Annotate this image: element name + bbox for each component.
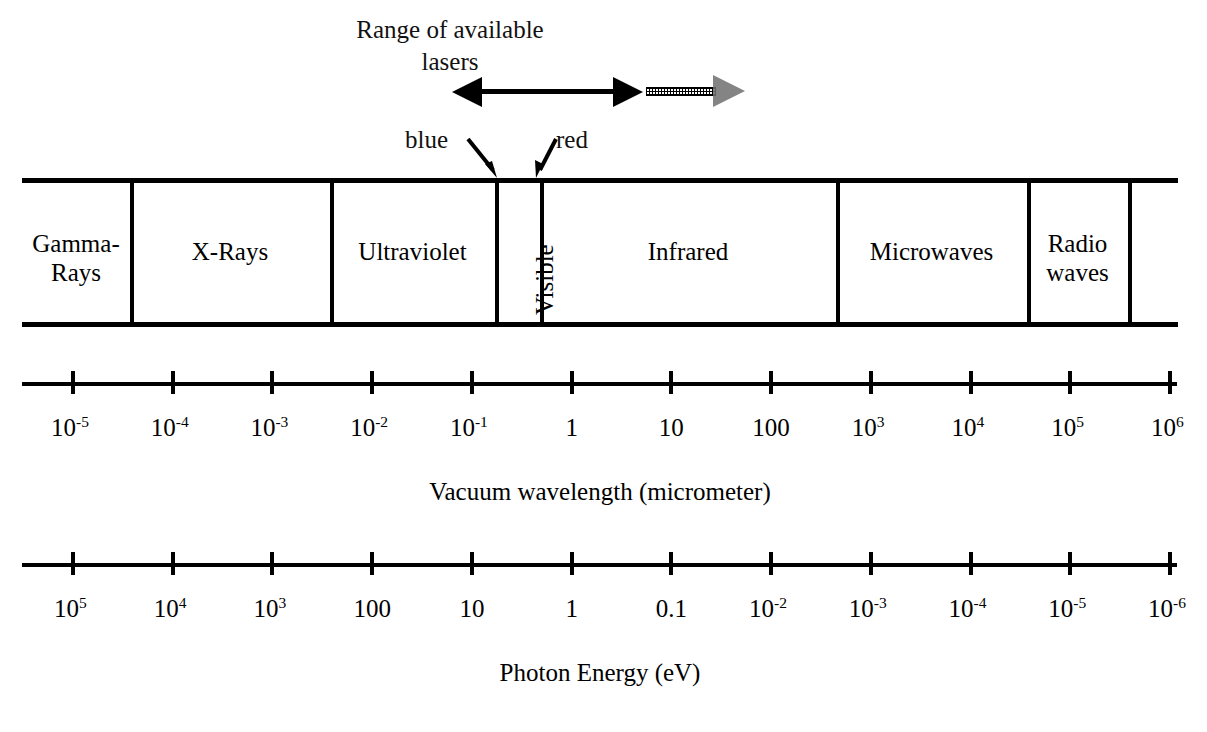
band-radio-waves-label: Radio waves — [1027, 230, 1128, 288]
axis-tick — [71, 552, 75, 575]
band-gamma-rays-label: Gamma- Rays — [22, 230, 130, 288]
axis-tick — [370, 371, 374, 394]
vacuum-wavelength-axis-caption: Vacuum wavelength (micrometer) — [429, 478, 771, 506]
photon-energy-axis-caption: Photon Energy (eV) — [500, 659, 701, 687]
axis-tick — [470, 371, 474, 394]
axis-tick — [1168, 552, 1172, 575]
axis-tick — [570, 371, 574, 394]
axis-tick — [769, 552, 773, 575]
band-x-rays-label: X-Rays — [130, 238, 330, 267]
axis-tick-label: 10-4 — [151, 414, 189, 442]
axis-tick — [270, 371, 274, 394]
red-pointer-arrow — [540, 139, 556, 170]
axis-tick-label: 10-6 — [1148, 595, 1186, 623]
axis-tick — [171, 371, 175, 394]
axis-tick — [869, 552, 873, 575]
axis-tick — [270, 552, 274, 575]
axis-tick — [370, 552, 374, 575]
axis-tick — [570, 552, 574, 575]
band-divider — [495, 178, 499, 327]
axis-tick-label: 10-2 — [350, 414, 388, 442]
pointer-arrows-group — [0, 0, 1207, 200]
axis-tick-label: 103 — [852, 414, 885, 442]
axis-tick-label: 10-5 — [1048, 595, 1086, 623]
axis-tick-label: 106 — [1151, 414, 1184, 442]
axis-tick-label: 10 — [659, 414, 684, 442]
photon-energy-axis-line — [22, 563, 1177, 567]
axis-tick-label: 10-5 — [51, 414, 89, 442]
axis-tick — [171, 552, 175, 575]
axis-tick-label: 10-1 — [450, 414, 488, 442]
axis-tick — [71, 371, 75, 394]
axis-tick-label: 10-3 — [250, 414, 288, 442]
axis-tick — [1068, 552, 1072, 575]
axis-tick-label: 105 — [54, 595, 87, 623]
band-microwaves-label: Microwaves — [836, 238, 1027, 267]
axis-tick — [669, 371, 673, 394]
vacuum-wavelength-axis-line — [22, 382, 1177, 386]
axis-tick-label: 100 — [752, 414, 790, 442]
axis-tick — [969, 552, 973, 575]
axis-tick-label: 104 — [952, 414, 985, 442]
axis-tick — [869, 371, 873, 394]
axis-tick-label: 1 — [565, 595, 578, 623]
axis-tick-label: 104 — [154, 595, 187, 623]
spectrum-figure: Range of available lasers blue red Gamma… — [0, 0, 1207, 732]
axis-tick — [969, 371, 973, 394]
axis-tick — [769, 371, 773, 394]
band-divider — [1128, 178, 1132, 327]
band-infrared-label: Infrared — [540, 238, 836, 267]
axis-tick-label: 10-3 — [849, 595, 887, 623]
axis-tick-label: 0.1 — [656, 595, 687, 623]
axis-tick — [1068, 371, 1072, 394]
axis-tick-label: 105 — [1051, 414, 1084, 442]
axis-tick-label: 10 — [459, 595, 484, 623]
band-rule-top — [22, 178, 1178, 183]
axis-tick-label: 10-2 — [749, 595, 787, 623]
band-ultraviolet-label: Ultraviolet — [330, 238, 495, 267]
axis-tick-label: 100 — [353, 595, 391, 623]
axis-tick-label: 103 — [253, 595, 286, 623]
axis-tick-label: 10-4 — [949, 595, 987, 623]
axis-tick-label: 1 — [565, 414, 578, 442]
axis-tick — [669, 552, 673, 575]
blue-pointer-arrow-head-icon — [485, 161, 497, 178]
band-rule-bottom — [22, 322, 1178, 327]
axis-tick — [1168, 371, 1172, 394]
axis-tick — [470, 552, 474, 575]
